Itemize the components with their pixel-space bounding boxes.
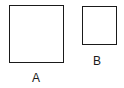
square-a bbox=[9, 5, 64, 63]
label-b: B bbox=[93, 55, 101, 67]
square-b bbox=[82, 6, 117, 45]
label-a: A bbox=[32, 72, 40, 84]
